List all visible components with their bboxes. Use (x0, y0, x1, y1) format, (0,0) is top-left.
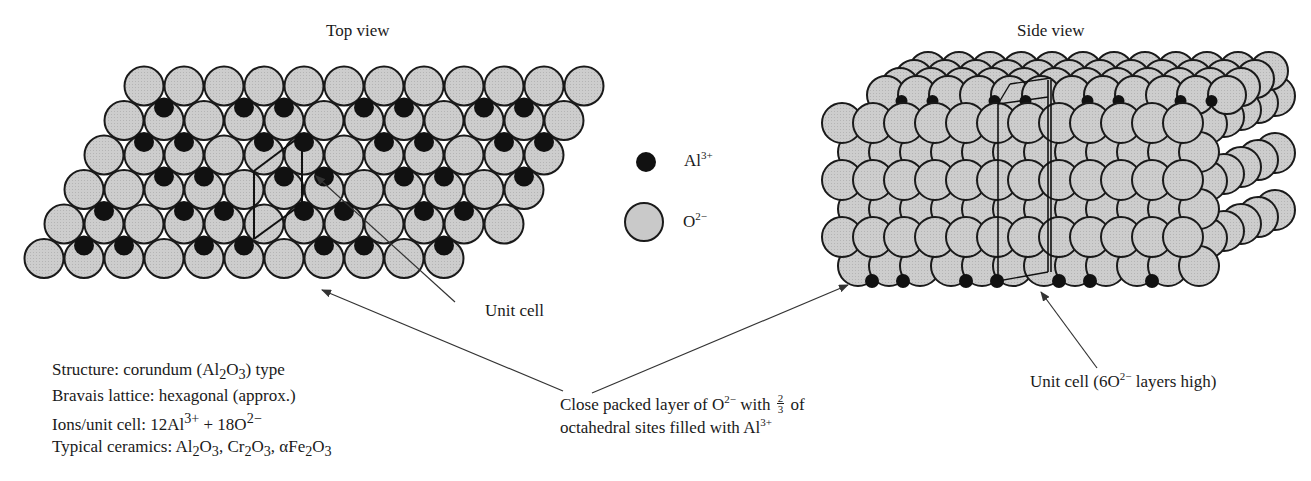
oxygen-ion (285, 67, 324, 106)
property-bravais-lattice: Bravais lattice: hexagonal (approx.) (52, 385, 332, 407)
oxygen-ion (125, 205, 164, 244)
oxygen-ion (525, 67, 564, 106)
arrow-unit-cell-side (1041, 292, 1097, 368)
aluminum-ion-bottom (1083, 274, 1097, 288)
oxygen-ion (205, 136, 244, 175)
side-view-lattice (822, 52, 1295, 288)
aluminum-ion (214, 201, 234, 221)
aluminum-ion (174, 132, 194, 152)
oxygen-ion-top (1208, 76, 1246, 114)
aluminum-ion (194, 166, 214, 186)
oxygen-ion (185, 101, 224, 140)
property-ions-per-cell: Ions/unit cell: 12Al3+ + 18O2− (52, 407, 332, 436)
aluminum-ion (134, 132, 154, 152)
oxygen-ion (85, 136, 124, 175)
aluminum-ion (274, 97, 294, 117)
aluminum-ion (314, 235, 334, 255)
oxygen-ion (45, 205, 84, 244)
legend-oxygen-symbol: O (683, 212, 695, 231)
aluminum-ion-bottom (865, 274, 879, 288)
oxygen-ion (325, 67, 364, 106)
aluminum-ion (294, 132, 314, 152)
aluminum-ion (394, 166, 414, 186)
oxygen-ion (1163, 160, 1203, 200)
structure-properties: Structure: corundum (Al2O3) type Bravais… (52, 359, 332, 462)
aluminum-ion (394, 97, 414, 117)
aluminum-ion (294, 201, 314, 221)
oxygen-ion (1163, 103, 1203, 143)
oxygen-ion (445, 136, 484, 175)
aluminum-ion (234, 235, 254, 255)
ceramic-item: Al2O3 (175, 437, 218, 456)
aluminum-ion (374, 132, 394, 152)
aluminum-ion (514, 97, 534, 117)
oxygen-ion (125, 67, 164, 106)
aluminum-ion (194, 235, 214, 255)
oxygen-ion (385, 239, 424, 278)
oxygen-ion (345, 170, 384, 209)
unit-cell-side-label: Unit cell (6O2− layers high) (1030, 372, 1216, 393)
aluminum-ion-bottom (896, 274, 910, 288)
oxygen-ion (205, 67, 244, 106)
aluminum-ion (174, 201, 194, 221)
aluminum-ion (254, 132, 274, 152)
oxygen-ion (165, 67, 204, 106)
aluminum-ion (434, 235, 454, 255)
property-structure: Structure: corundum (Al2O3) type (52, 359, 332, 385)
ceramic-item: , Cr2O3 (219, 437, 271, 456)
oxygen-ion (305, 101, 344, 140)
oxygen-ion (105, 170, 144, 209)
aluminum-ion (514, 166, 534, 186)
aluminum-ion (74, 235, 94, 255)
aluminum-ion (414, 201, 434, 221)
oxygen-ion (265, 239, 304, 278)
oxygen-ion (245, 205, 284, 244)
oxygen-ion (365, 67, 404, 106)
oxygen-ion-icon (624, 202, 664, 242)
oxygen-ion (425, 101, 464, 140)
aluminum-ion-bottom (959, 274, 973, 288)
aluminum-ion (534, 132, 554, 152)
aluminum-ion (114, 235, 134, 255)
aluminum-ion-icon (636, 152, 656, 172)
aluminum-ion-bottom (1145, 274, 1159, 288)
aluminum-ion (454, 201, 474, 221)
oxygen-ion (145, 239, 184, 278)
aluminum-ion (494, 132, 514, 152)
legend-oxygen: O2− (624, 202, 707, 242)
oxygen-ion (465, 170, 504, 209)
aluminum-ion (154, 97, 174, 117)
aluminum-ion-bottom (1052, 274, 1066, 288)
close-packed-annotation: Close packed layer of O2− with 23 of oct… (560, 394, 805, 440)
aluminum-ion (154, 166, 174, 186)
oxygen-ion (405, 67, 444, 106)
oxygen-ion (1163, 217, 1203, 257)
oxygen-ion (565, 67, 604, 106)
oxygen-ion (445, 67, 484, 106)
aluminum-ion (434, 166, 454, 186)
oxygen-ion (485, 205, 524, 244)
oxygen-ion (25, 239, 64, 278)
aluminum-ion (354, 235, 374, 255)
aluminum-ion (334, 201, 354, 221)
legend-aluminum: Al3+ (636, 151, 713, 172)
top-view-lattice (25, 67, 604, 279)
oxygen-ion (545, 101, 584, 140)
aluminum-ion-top (1206, 95, 1218, 107)
legend-oxygen-charge: 2− (695, 210, 707, 222)
aluminum-ion (274, 166, 294, 186)
property-typical-ceramics: Typical ceramics: Al2O3, Cr2O3, αFe2O3 (52, 436, 332, 462)
corundum-structure-figure: Top view Side view Al3+ (0, 0, 1311, 481)
two-thirds-fraction: 23 (777, 393, 785, 414)
arrow-close-packed-right (592, 285, 848, 393)
ceramic-item: , αFe2O3 (271, 437, 332, 456)
legend-aluminum-symbol: Al (684, 151, 701, 170)
legend-aluminum-charge: 3+ (701, 149, 713, 161)
unit-cell-top-label: Unit cell (485, 301, 544, 321)
oxygen-ion (485, 67, 524, 106)
oxygen-ion (225, 170, 264, 209)
aluminum-ion (234, 97, 254, 117)
oxygen-ion (325, 136, 364, 175)
oxygen-ion (245, 67, 284, 106)
aluminum-ion (94, 201, 114, 221)
